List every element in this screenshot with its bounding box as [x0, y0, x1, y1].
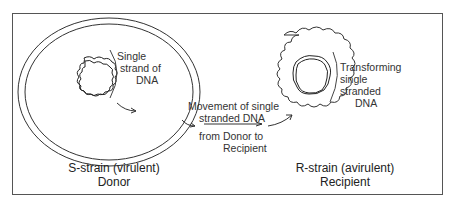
transfer-label-line1: Movement of single	[188, 100, 279, 112]
transfer-label-line4: Recipient	[223, 142, 267, 154]
recipient-annotation-line2: single	[340, 73, 367, 85]
donor-caption-line2: Donor	[54, 175, 174, 189]
recipient-annotation-line1: Transforming	[340, 61, 401, 73]
transfer-label-line2: stranded DNA	[199, 112, 265, 124]
donor-annotation-line2: strand of	[120, 62, 161, 74]
recipient-caption-line2: Recipient	[282, 175, 408, 189]
recipient-annotation-line4: DNA	[355, 97, 377, 109]
donor-internal-arrow-icon	[117, 103, 136, 113]
donor-cell	[18, 18, 200, 166]
donor-annotation-line3: DNA	[136, 74, 158, 86]
donor-annotation-line1: Single	[117, 50, 146, 62]
transfer-label-line3: from Donor to	[199, 130, 263, 142]
donor-caption-line1: S-strain (virulent)	[54, 161, 174, 175]
recipient-caption-line1: R-strain (avirulent)	[282, 161, 408, 175]
donor-dna-loop	[77, 57, 117, 96]
entry-arrow-icon	[268, 115, 292, 126]
recipient-dna-loop	[293, 56, 331, 95]
recipient-annotation-line3: stranded	[340, 85, 381, 97]
recipient-bracket	[330, 52, 337, 102]
